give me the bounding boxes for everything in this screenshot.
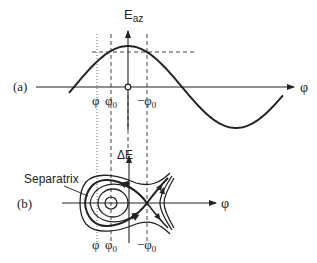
panel-a: (a) Eaz φ φ φ0 −φ0 (13, 7, 308, 130)
panel-b-label: (b) (17, 196, 32, 211)
panel-b-x-axis-label: φ (221, 196, 229, 211)
separatrix-label: Separatrix (24, 172, 79, 186)
rf-bucket-diagram: (a) Eaz φ φ φ0 −φ0 (0, 0, 317, 263)
panel-a-x-axis-label: φ (300, 80, 308, 95)
synchronous-phase-marker (125, 84, 131, 90)
separatrix-leader-line (64, 186, 88, 196)
panel-a-label: (a) (13, 79, 27, 94)
panel-a-y-axis-label: Eaz (124, 7, 143, 24)
panel-b-tick-phi: φ (92, 237, 100, 252)
panel-b-tick-neg-phi0: −φ0 (137, 237, 157, 254)
panel-a-tick-neg-phi0: −φ0 (137, 93, 157, 110)
panel-b-y-axis-label: ΔE (117, 148, 133, 162)
panel-b: Separatrix (b) ΔE φ φ φ0 −φ0 (17, 148, 229, 254)
panel-a-tick-phi: φ (92, 93, 100, 108)
flow-arrow-lower-branch (155, 213, 159, 218)
panel-a-tick-phi0: φ0 (105, 93, 118, 110)
panel-b-tick-phi0: φ0 (105, 237, 118, 254)
